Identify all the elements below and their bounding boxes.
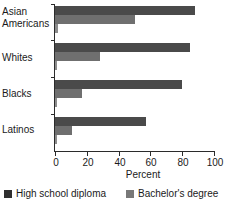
x-axis-tick xyxy=(87,152,88,156)
x-axis-tick xyxy=(119,152,120,156)
bar-blacks-high-school-diploma xyxy=(55,80,182,89)
x-axis-tick xyxy=(182,152,183,156)
dark-swatch-icon xyxy=(4,190,12,198)
category-label-line: Blacks xyxy=(2,88,52,100)
x-axis-label: Percent xyxy=(0,169,230,180)
bar-whites-third-series xyxy=(55,61,57,70)
category-label-blacks: Blacks xyxy=(2,88,52,100)
bar-asian-americans-bachelors-degree xyxy=(55,15,135,24)
bar-latinos-third-series xyxy=(55,135,57,144)
x-axis-tick-label: 0 xyxy=(53,157,59,168)
x-axis-tick-label: 80 xyxy=(177,157,188,168)
category-label-line: Americans xyxy=(2,18,52,30)
legend-entry-bachelors-degree: Bachelor's degree xyxy=(126,188,218,199)
category-label-line: Whites xyxy=(2,52,52,64)
legend-label: Bachelor's degree xyxy=(138,188,218,199)
legend-entry-high-school-diploma: High school diploma xyxy=(4,188,106,199)
bar-asian-americans-third-series xyxy=(55,24,58,33)
x-axis-tick-label: 40 xyxy=(114,157,125,168)
plot-area xyxy=(55,4,214,151)
category-label-asian-americans: Asian Americans xyxy=(2,6,52,29)
x-axis-tick-label: 20 xyxy=(82,157,93,168)
x-axis-line xyxy=(54,151,215,152)
x-axis-tick xyxy=(55,152,56,156)
bar-blacks-bachelors-degree xyxy=(55,89,82,98)
bar-latinos-high-school-diploma xyxy=(55,117,146,126)
x-axis-tick-label: 60 xyxy=(145,157,156,168)
x-axis-tick xyxy=(150,152,151,156)
x-axis-tick-label: 100 xyxy=(207,157,224,168)
gray-swatch-icon xyxy=(126,190,134,198)
chart-legend: High school diploma Bachelor's degree xyxy=(0,188,230,204)
bar-chart-figure: Asian Americans Whites Blacks Latinos xyxy=(0,0,230,208)
bar-latinos-bachelors-degree xyxy=(55,126,72,135)
category-label-line: Asian xyxy=(2,6,52,18)
bar-asian-americans-high-school-diploma xyxy=(55,6,195,15)
x-axis-tick xyxy=(214,152,215,156)
category-label-whites: Whites xyxy=(2,52,52,64)
bar-whites-high-school-diploma xyxy=(55,43,190,52)
category-label-latinos: Latinos xyxy=(2,124,52,136)
bar-blacks-third-series xyxy=(55,98,57,107)
bar-whites-bachelors-degree xyxy=(55,52,100,61)
category-label-line: Latinos xyxy=(2,124,52,136)
legend-label: High school diploma xyxy=(16,188,106,199)
